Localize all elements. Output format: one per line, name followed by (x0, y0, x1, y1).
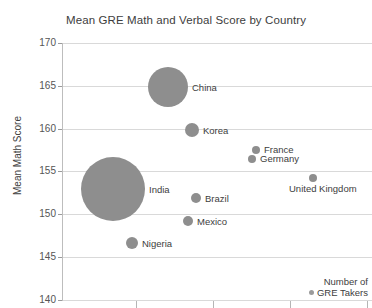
size-legend-line2-wrap: GRE Takers (309, 287, 368, 298)
y-axis-tick-label: 140 (22, 295, 56, 305)
x-axis-tickmark (367, 301, 368, 308)
data-point-label: Germany (260, 154, 299, 164)
y-axis-tick-label: 145 (22, 252, 56, 262)
data-point-bubble[interactable] (191, 193, 201, 203)
gridline (62, 43, 372, 44)
y-axis-tick-label: 165 (22, 81, 56, 91)
data-point-label: China (192, 83, 217, 93)
legend-bubble-icon (309, 290, 314, 295)
x-axis-tickmark (290, 301, 291, 308)
data-point-bubble[interactable] (252, 146, 260, 154)
bubble-chart: Mean GRE Math and Verbal Score by Countr… (0, 0, 372, 308)
data-point-label: United Kingdom (289, 184, 357, 194)
size-legend: Number of GRE Takers (309, 276, 368, 298)
chart-title: Mean GRE Math and Verbal Score by Countr… (0, 14, 372, 26)
data-point-bubble[interactable] (185, 123, 199, 137)
data-point-bubble[interactable] (248, 155, 256, 163)
data-point-label: Brazil (205, 194, 229, 204)
data-point-bubble[interactable] (148, 67, 188, 107)
y-axis-tick-label: 160 (22, 124, 56, 134)
y-axis-line (62, 43, 63, 301)
x-axis-tickmark (136, 301, 137, 308)
y-axis-tick-label: 170 (22, 38, 56, 48)
data-point-bubble[interactable] (309, 174, 317, 182)
gridline (62, 257, 372, 258)
y-axis-tick-label: 155 (22, 166, 56, 176)
data-point-bubble[interactable] (183, 216, 193, 226)
y-axis-tick-label: 150 (22, 209, 56, 219)
data-point-bubble[interactable] (81, 157, 145, 221)
data-point-label: Mexico (197, 217, 227, 227)
x-axis-tickmark (213, 301, 214, 308)
data-point-label: Korea (203, 126, 228, 136)
gridline (62, 86, 372, 87)
data-point-bubble[interactable] (126, 237, 138, 249)
data-point-label: India (149, 185, 170, 195)
y-axis-title: Mean Math Score (12, 96, 23, 216)
gridline (62, 300, 372, 301)
size-legend-line2: GRE Takers (317, 287, 368, 298)
data-point-label: Nigeria (142, 239, 172, 249)
size-legend-line1: Number of (309, 276, 368, 287)
